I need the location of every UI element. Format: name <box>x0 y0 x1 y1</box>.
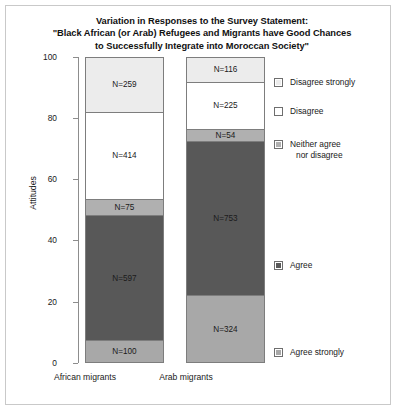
segment-arab-agree[interactable]: N=753 <box>187 142 264 296</box>
legend-item-neither-agree-nor-disagree[interactable]: Neither agree nor disagree <box>274 139 343 160</box>
legend-item-disagree-strongly[interactable]: Disagree strongly <box>274 77 355 88</box>
legend-label-line-1: Neither agree <box>290 139 343 150</box>
y-tick-0 <box>73 363 78 364</box>
y-tick-80 <box>73 118 78 119</box>
chart-title-line-2: "Black African (or Arab) Refugees and Mi… <box>34 27 370 39</box>
segment-value-label: N=259 <box>112 80 136 89</box>
segment-value-label: N=100 <box>112 347 136 356</box>
chart-title: Variation in Responses to the Survey Sta… <box>34 15 370 52</box>
y-axis-title: Attitudes <box>28 160 38 226</box>
segment-value-label: N=116 <box>214 65 238 74</box>
y-tick-20 <box>73 302 78 303</box>
y-tick-label-100: 100 <box>31 53 57 61</box>
y-tick-60 <box>73 179 78 180</box>
stacked-bar-african-migrants[interactable]: N=259 N=414 N=75 N=597 N=100 <box>85 57 164 363</box>
chart-title-line-1: Variation in Responses to the Survey Sta… <box>34 15 370 27</box>
legend-item-agree[interactable]: Agree <box>274 260 312 271</box>
legend-item-disagree[interactable]: Disagree <box>274 106 324 117</box>
legend-label-line-1: Disagree strongly <box>290 77 355 88</box>
segment-african-neither[interactable]: N=75 <box>86 200 163 217</box>
y-tick-label-80: 80 <box>31 114 57 122</box>
stacked-bar-arab-migrants[interactable]: N=116 N=225 N=54 N=753 N=324 <box>186 57 265 363</box>
y-tick-40 <box>73 240 78 241</box>
legend-label: Disagree strongly <box>290 77 355 88</box>
chart-figure: Variation in Responses to the Survey Sta… <box>5 5 391 405</box>
plot-area: N=259 N=414 N=75 N=597 N=100 N=116 N=225 <box>79 57 269 363</box>
y-tick-100 <box>73 57 78 58</box>
legend-swatch-icon <box>274 78 283 87</box>
legend-label-line-1: Agree strongly <box>290 347 344 358</box>
segment-arab-disagree[interactable]: N=225 <box>187 83 264 130</box>
legend-label-line-1: Agree <box>290 260 312 271</box>
segment-african-agree[interactable]: N=597 <box>86 216 163 341</box>
segment-arab-neither[interactable]: N=54 <box>187 130 264 142</box>
segment-value-label: N=75 <box>115 203 135 212</box>
legend-swatch-icon <box>274 261 283 270</box>
x-axis-label-arab-migrants: Arab migrants <box>131 372 241 382</box>
segment-value-label: N=414 <box>112 151 136 160</box>
segment-arab-disagree-strongly[interactable]: N=116 <box>187 58 264 83</box>
legend-label: Agree strongly <box>290 347 344 358</box>
legend-swatch-icon <box>274 140 283 149</box>
segment-value-label: N=597 <box>112 274 136 283</box>
segment-african-agree-strongly[interactable]: N=100 <box>86 341 163 362</box>
legend-item-agree-strongly[interactable]: Agree strongly <box>274 347 344 358</box>
y-tick-label-40: 40 <box>31 236 57 244</box>
chart-legend: Disagree strongly Disagree Neither agree… <box>274 57 389 363</box>
chart-title-line-3: to Successfully Integrate into Moroccan … <box>34 40 370 52</box>
legend-swatch-icon <box>274 348 283 357</box>
segment-value-label: N=324 <box>213 325 237 334</box>
legend-label: Agree <box>290 260 312 271</box>
segment-value-label: N=54 <box>216 131 236 140</box>
y-tick-label-20: 20 <box>31 298 57 306</box>
segment-arab-agree-strongly[interactable]: N=324 <box>187 296 264 362</box>
legend-label: Disagree <box>290 106 324 117</box>
legend-label-line-1: Disagree <box>290 106 324 117</box>
segment-african-disagree[interactable]: N=414 <box>86 113 163 200</box>
segment-african-disagree-strongly[interactable]: N=259 <box>86 58 163 113</box>
x-axis-label-african-migrants: African migrants <box>30 372 140 382</box>
legend-swatch-icon <box>274 107 283 116</box>
legend-label-line-2: nor disagree <box>290 150 343 161</box>
segment-value-label: N=225 <box>213 101 237 110</box>
y-tick-label-0: 0 <box>31 359 57 367</box>
segment-value-label: N=753 <box>213 214 237 223</box>
legend-label: Neither agree nor disagree <box>290 139 343 160</box>
